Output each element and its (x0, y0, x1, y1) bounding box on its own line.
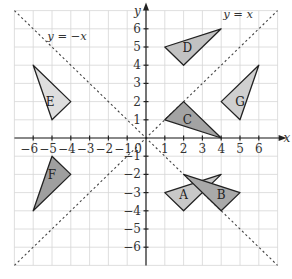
x-tick-label: −2 (96, 142, 114, 156)
triangle-label-b: B (217, 188, 226, 202)
y-axis-label: y (133, 4, 141, 18)
y-tick-label: 6 (133, 22, 141, 36)
x-tick-label: 5 (236, 142, 244, 156)
x-axis-label: x (284, 131, 291, 145)
line-label-y-eq-x: y = x (222, 7, 253, 21)
x-tick-label: −3 (77, 142, 95, 156)
x-tick-label: 3 (199, 142, 207, 156)
y-tick-label: −3 (123, 186, 141, 200)
line-label-y-eq-neg-x: y = −x (46, 29, 87, 43)
x-tick-label: 2 (180, 142, 188, 156)
x-tick-label: −6 (20, 142, 38, 156)
triangle-label-c: C (183, 113, 192, 127)
triangle-label-f: F (48, 168, 56, 182)
y-tick-label: −6 (123, 240, 141, 254)
triangle-label-g: G (235, 95, 245, 109)
y-tick-label: 2 (133, 95, 141, 109)
y-tick-label: 5 (133, 40, 141, 54)
y-tick-label: 1 (133, 113, 141, 127)
labels: −6−5−4−3−2−1123456−6−5−4−3−2−11234560xyy… (20, 4, 290, 255)
triangle-label-a: A (178, 188, 188, 202)
y-tick-label: −4 (123, 204, 141, 218)
triangle-label-d: D (183, 41, 193, 55)
y-axis-arrow-icon (143, 3, 149, 11)
x-tick-label: −5 (39, 142, 57, 156)
y-tick-label: −5 (123, 222, 141, 236)
origin-label: 0 (134, 142, 142, 156)
y-tick-label: 4 (133, 58, 141, 72)
x-tick-label: 1 (161, 142, 169, 156)
triangle-label-e: E (46, 95, 55, 109)
y-tick-label: 3 (133, 76, 141, 90)
x-tick-label: −4 (58, 142, 76, 156)
x-tick-label: 4 (217, 142, 225, 156)
y-tick-label: −2 (123, 167, 141, 181)
coordinate-grid-diagram: −6−5−4−3−2−1123456−6−5−4−3−2−11234560xyy… (0, 0, 292, 279)
x-tick-label: 6 (255, 142, 263, 156)
